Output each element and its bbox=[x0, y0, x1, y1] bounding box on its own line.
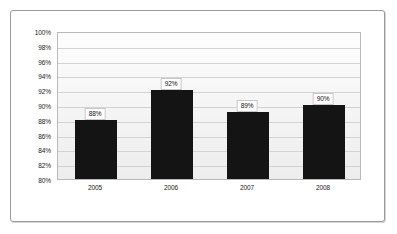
x-axis: 2005200620072008 bbox=[57, 182, 361, 196]
y-axis-tick-label: 100% bbox=[35, 29, 51, 36]
y-axis-tick-label: 92% bbox=[38, 88, 51, 95]
bar[interactable] bbox=[227, 112, 269, 179]
y-axis-tick-label: 86% bbox=[38, 132, 51, 139]
bar-slot bbox=[134, 33, 210, 179]
x-axis-tick-label: 2008 bbox=[316, 184, 330, 191]
y-axis-tick-label: 96% bbox=[38, 58, 51, 65]
y-axis-tick-label: 94% bbox=[38, 73, 51, 80]
bar-slot bbox=[286, 33, 361, 179]
bar-value-label: 88% bbox=[85, 108, 106, 120]
chart-frame: 100%98%96%94%92%90%88%86%84%82%80% 88%92… bbox=[10, 10, 385, 222]
y-axis: 100%98%96%94%92%90%88%86%84%82%80% bbox=[11, 32, 55, 180]
y-axis-tick-label: 88% bbox=[38, 117, 51, 124]
bar[interactable] bbox=[75, 120, 117, 179]
bar-slot bbox=[58, 33, 134, 179]
y-axis-tick-label: 82% bbox=[38, 162, 51, 169]
bar-value-label: 92% bbox=[161, 78, 182, 90]
bar[interactable] bbox=[151, 90, 193, 179]
x-axis-tick-label: 2006 bbox=[164, 184, 178, 191]
y-axis-tick-label: 84% bbox=[38, 147, 51, 154]
y-axis-tick-label: 80% bbox=[38, 177, 51, 184]
bar-value-label: 90% bbox=[313, 93, 334, 105]
x-axis-tick-label: 2007 bbox=[240, 184, 254, 191]
bar[interactable] bbox=[303, 105, 345, 179]
y-axis-tick-label: 90% bbox=[38, 103, 51, 110]
plot-area bbox=[57, 32, 361, 180]
x-axis-tick-label: 2005 bbox=[88, 184, 102, 191]
y-axis-tick-label: 98% bbox=[38, 43, 51, 50]
plot-wrapper: 88%92%89%90% bbox=[57, 32, 361, 180]
bar-value-label: 89% bbox=[237, 100, 258, 112]
